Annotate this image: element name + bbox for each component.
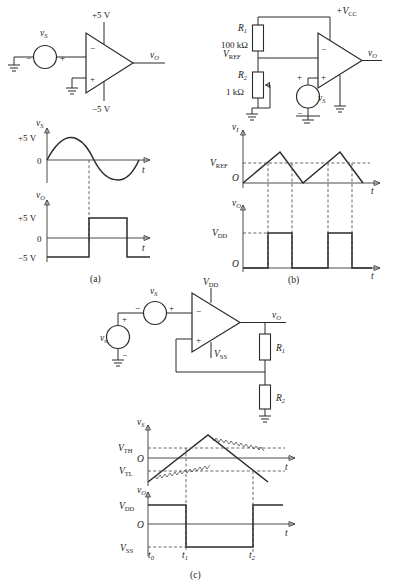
- panel-b-vcc-label: +VCC: [336, 6, 357, 17]
- panel-a-out-bottom-label: −5 V: [18, 253, 37, 263]
- panel-b-source-plus: +: [297, 72, 302, 82]
- comparator-circuits-figure: vS − + − + +5 V −5 V vO vS +5 V 0 t: [0, 0, 395, 588]
- panel-c-t1-label: t1: [182, 550, 188, 561]
- panel-c-r2-label: R2: [275, 393, 286, 404]
- panel-a-circuit: vS − + − + +5 V −5 V vO: [8, 10, 165, 114]
- panel-c-vn-plus: +: [122, 314, 127, 324]
- panel-b-noninverting-sign: +: [321, 72, 326, 82]
- panel-b-input-waveform: vI VREF O t: [210, 122, 380, 268]
- panel-b-output-waveform: vO VDD O t: [212, 198, 380, 281]
- panel-b-in-xlabel: t: [371, 186, 374, 196]
- panel-c-vs-label: vS: [150, 286, 158, 297]
- panel-a-out-top-label: +5 V: [18, 213, 37, 223]
- panel-c-vs-plus: +: [169, 303, 174, 313]
- panel-c-vss-label: VSS: [214, 349, 227, 360]
- panel-c-t0-label: t0: [148, 550, 155, 561]
- panel-a-output-label: vO: [150, 50, 159, 61]
- panel-b-out-ylabel: vO: [232, 198, 241, 209]
- panel-a-out-zero-label: 0: [37, 234, 42, 244]
- panel-c-out-xlabel: t: [285, 528, 288, 538]
- panel-a-out-ylabel: vO: [36, 190, 45, 201]
- panel-c-circuit: vS − + vn + − − + VDD VSS vO R1 R2: [100, 277, 286, 422]
- panel-c-vs-minus: −: [135, 303, 140, 313]
- panel-b-circuit: R1 100 kΩ R2 1 kΩ VREF +VCC − + + − vS v…: [221, 6, 382, 123]
- resistor-r1-c: [260, 334, 271, 360]
- panel-a-out-xlabel: t: [142, 243, 145, 253]
- panel-b-out-high-label: VDD: [212, 228, 228, 239]
- resistor-r2-c: [260, 385, 271, 409]
- panel-a-in-zero-label: 0: [37, 156, 42, 166]
- source-vs-a: [34, 46, 57, 69]
- panel-b-r2-label: R2: [237, 70, 248, 81]
- panel-a-inverting-sign: −: [90, 43, 95, 53]
- panel-a-source-label: vS: [40, 28, 48, 39]
- panel-b-caption: (b): [288, 275, 299, 286]
- panel-a-caption: (a): [90, 274, 101, 285]
- panel-c-vn-minus: −: [122, 350, 127, 360]
- panel-c-vth-label: VTH: [118, 443, 133, 454]
- source-vs-b: [297, 85, 320, 108]
- source-vn-c: [107, 326, 130, 349]
- panel-c-t2-label: t2: [249, 550, 256, 561]
- panel-a-source-minus: −: [26, 53, 31, 63]
- panel-a-vneg-label: −5 V: [92, 104, 111, 114]
- panel-c-noninverting-sign: +: [196, 335, 201, 345]
- panel-b-r1-label: R1: [237, 23, 247, 34]
- panel-b-out-origin: O: [232, 259, 239, 269]
- panel-c-in-origin: O: [137, 454, 144, 464]
- panel-a-noninverting-sign: +: [90, 74, 95, 84]
- resistor-r1-b: [253, 25, 264, 51]
- panel-c-output-waveform: vO VDD O VSS t0 t1 t2 t: [119, 485, 295, 561]
- opamp-a: [86, 33, 133, 93]
- panel-b-out-xlabel: t: [371, 271, 374, 281]
- panel-b-inverting-sign: −: [321, 44, 326, 54]
- panel-c-in-xlabel: t: [285, 462, 288, 472]
- panel-c-vtl-label: VTL: [119, 466, 133, 477]
- panel-a-output-waveform: vO +5 V 0 −5 V t: [18, 190, 150, 263]
- panel-a-vpos-label: +5 V: [92, 10, 111, 20]
- panel-a-in-ylabel: vS: [36, 118, 44, 129]
- panel-c-out-vdd-label: VDD: [119, 501, 135, 512]
- panel-c-out-origin: O: [137, 520, 144, 530]
- panel-b-source-minus: −: [297, 108, 302, 118]
- panel-c-out-vss-label: VSS: [120, 543, 133, 554]
- panel-c-caption: (c): [190, 570, 201, 581]
- panel-b-in-origin: O: [232, 173, 239, 183]
- panel-b-r2-value: 1 kΩ: [226, 87, 244, 97]
- panel-a-input-waveform: vS +5 V 0 t: [18, 118, 150, 243]
- panel-c-inverting-sign: −: [196, 306, 201, 316]
- panel-a-in-xlabel: t: [142, 165, 145, 175]
- panel-b-in-ylabel: vI: [232, 122, 239, 133]
- panel-b-source-label: vS: [318, 93, 326, 104]
- source-vs-c: [144, 302, 167, 325]
- panel-c-out-ylabel: vO: [137, 485, 146, 496]
- panel-c-in-ylabel: vS: [137, 417, 145, 428]
- panel-a-in-top-label: +5 V: [18, 133, 37, 143]
- panel-c-output-label: vO: [272, 310, 281, 321]
- figure-canvas: vS − + − + +5 V −5 V vO vS +5 V 0 t: [0, 0, 395, 588]
- panel-a-source-plus: +: [60, 53, 65, 63]
- resistor-r2-b: [253, 72, 264, 98]
- panel-b-vref-label: VREF: [223, 49, 241, 60]
- panel-b-in-ref-label: VREF: [210, 158, 228, 169]
- panel-c-vdd-label: VDD: [203, 277, 219, 288]
- panel-c-input-waveform: vS VTH O VTL t: [118, 417, 295, 552]
- panel-c-r1-label: R1: [275, 343, 285, 354]
- panel-b-output-label: vO: [368, 48, 377, 59]
